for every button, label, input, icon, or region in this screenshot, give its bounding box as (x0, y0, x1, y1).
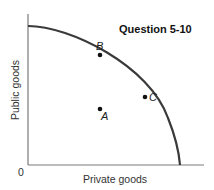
point-c-marker (143, 95, 148, 100)
point-b-label: B (96, 40, 103, 52)
origin-label: 0 (18, 166, 24, 178)
point-b-marker (98, 53, 103, 58)
x-axis-label: Private goods (83, 173, 147, 185)
question-title: Question 5-10 (119, 23, 192, 35)
point-c-label: C (149, 91, 157, 103)
point-a-label: A (100, 110, 108, 122)
y-axis-label: Public goods (9, 60, 21, 120)
ppf-diagram: B C A Question 5-10 0 Private goods Publ… (0, 0, 214, 190)
ppf-curve (28, 26, 180, 165)
